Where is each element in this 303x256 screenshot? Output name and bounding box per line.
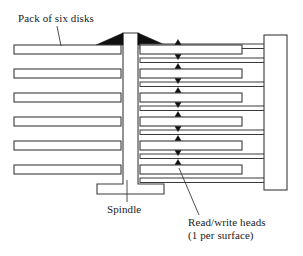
disk-platter-left: [14, 165, 121, 174]
disk-platter-left: [14, 45, 121, 54]
label-read-write-heads: Read/write heads (1 per surface): [188, 216, 266, 241]
actuator-arm: [140, 154, 265, 159]
disk-platter-right: [140, 165, 242, 174]
label-read-write-heads-line2: (1 per surface): [188, 229, 266, 242]
disk-platter-left: [14, 93, 121, 102]
leader-line-pack-of-disks: [57, 26, 61, 46]
read-write-head: [175, 64, 181, 69]
spindle-hub-wedge-right: [138, 33, 165, 45]
actuator-block: [264, 35, 287, 190]
label-read-write-heads-line1: Read/write heads: [188, 216, 266, 228]
disk-pack-diagram: Pack of six disks Spindle Read/write hea…: [0, 0, 303, 256]
actuator-arms-group: [140, 44, 265, 183]
leader-line-read-write-heads: [179, 168, 199, 215]
disk-platter-right: [140, 141, 242, 150]
spindle-hub-wedge-left: [96, 33, 123, 45]
actuator-block-group: [264, 35, 287, 190]
actuator-arm: [140, 106, 265, 111]
actuator-arm: [140, 178, 265, 183]
read-write-head: [175, 88, 181, 93]
disk-platter-right: [140, 45, 242, 54]
read-write-head: [175, 136, 181, 141]
read-write-head: [175, 112, 181, 117]
actuator-arm: [140, 130, 265, 135]
disk-platter-right: [140, 69, 242, 78]
actuator-arm: [140, 58, 265, 63]
label-pack-of-six-disks: Pack of six disks: [18, 12, 94, 25]
disk-platter-right: [140, 93, 242, 102]
disk-platter-right: [140, 117, 242, 126]
label-spindle: Spindle: [107, 203, 141, 216]
disk-platter-left: [14, 69, 121, 78]
disk-platter-left: [14, 141, 121, 150]
read-write-head: [175, 40, 181, 45]
read-write-head: [175, 160, 181, 165]
disk-platter-left: [14, 117, 121, 126]
actuator-arm: [140, 82, 265, 87]
